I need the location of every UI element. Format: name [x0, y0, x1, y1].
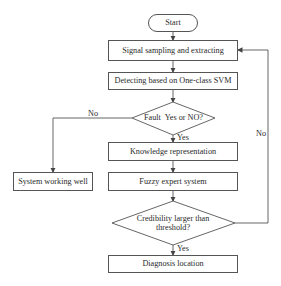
credibility-label-line2: threshold? [128, 223, 218, 232]
detecting-svm-label: Detecting based on One-class SVM [115, 76, 232, 85]
start-label: Start [165, 18, 180, 27]
start-node: Start [148, 14, 198, 32]
diagnosis-location-label: Diagnosis location [142, 259, 203, 268]
fault-yes-label: Yes [177, 133, 189, 142]
system-working-well-label: System working well [18, 177, 88, 186]
signal-sampling-label: Signal sampling and extracting [122, 46, 224, 55]
knowledge-representation-node: Knowledge representation [108, 142, 238, 161]
credibility-no-label: No [256, 129, 266, 138]
credibility-decision-label: Credibility larger than threshold? [128, 214, 218, 233]
knowledge-representation-label: Knowledge representation [130, 147, 216, 156]
credibility-label-line1: Credibility larger than [128, 214, 218, 223]
signal-sampling-node: Signal sampling and extracting [108, 40, 238, 61]
detecting-svm-node: Detecting based on One-class SVM [108, 72, 238, 90]
credibility-yes-label: Yes [177, 244, 189, 253]
fault-no-label: No [88, 109, 98, 118]
system-working-well-node: System working well [13, 172, 93, 191]
diagnosis-location-node: Diagnosis location [108, 255, 238, 273]
fuzzy-expert-system-node: Fuzzy expert system [108, 172, 238, 191]
fuzzy-expert-system-label: Fuzzy expert system [139, 177, 206, 186]
fault-decision-label: Fault Yes or NO? [132, 113, 215, 122]
